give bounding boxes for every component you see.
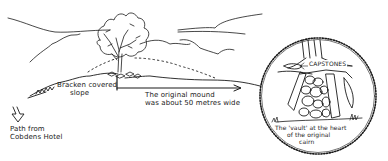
- capstones-text: CAPSTONES: [309, 60, 346, 67]
- diagram-canvas: Bracken covered slope The original mound…: [0, 0, 388, 161]
- bracken-label-line2: slope: [57, 89, 117, 97]
- vault-label-line2: of the original: [275, 131, 346, 138]
- vault-label-line3: cairn: [275, 138, 346, 145]
- capstones-label: CAPSTONES: [308, 60, 347, 67]
- path-label: Path from Cobdens Hotel: [10, 125, 63, 141]
- path-arrow-icon: [12, 107, 24, 122]
- mound-outline-icon: [88, 58, 215, 78]
- bracken-label: Bracken covered slope: [57, 81, 117, 97]
- path-label-line1: Path from: [10, 125, 63, 133]
- bracken-label-line1: Bracken covered: [57, 81, 117, 89]
- bracken-icon: [28, 87, 54, 98]
- mound-width-label: The original mound was about 50 metres w…: [145, 91, 240, 107]
- dimension-arrow-icon: [117, 76, 241, 91]
- vault-label-line1: The 'vault' at the heart: [275, 124, 346, 131]
- path-label-line2: Cobdens Hotel: [10, 133, 63, 141]
- mound-label-line1: The original mound: [145, 91, 240, 99]
- vault-label: The 'vault' at the heart of the original…: [275, 124, 346, 145]
- tree-icon: [97, 13, 149, 78]
- mound-label-line2: was about 50 metres wide: [145, 99, 240, 107]
